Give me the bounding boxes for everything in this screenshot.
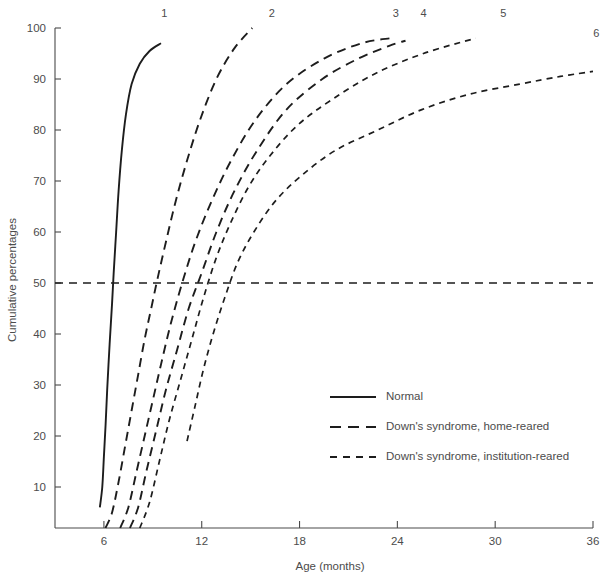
y-tick-label-60: 60: [33, 226, 46, 238]
legend-label-solid: Normal: [386, 390, 423, 402]
y-tick-label-40: 40: [33, 328, 46, 340]
x-tick-label-24: 24: [391, 535, 404, 547]
y-tick-label-70: 70: [33, 175, 46, 187]
curve-label-3: 3: [393, 7, 399, 19]
y-tick-label-30: 30: [33, 379, 46, 391]
curve-label-2: 2: [269, 7, 275, 19]
x-axis-title: Age (months): [295, 560, 364, 572]
curve-4: [130, 41, 406, 528]
y-tick-label-10: 10: [33, 481, 46, 493]
curve-label-5: 5: [500, 7, 506, 19]
y-tick-label-80: 80: [33, 124, 46, 136]
legend-label-inst: Down's syndrome, institution-reared: [386, 450, 569, 462]
curve-6: [187, 71, 593, 441]
x-tick-label-36: 36: [587, 535, 600, 547]
x-tick-label-12: 12: [195, 535, 208, 547]
y-tick-label-90: 90: [33, 73, 46, 85]
y-tick-label-100: 100: [27, 22, 46, 34]
curve-label-4: 4: [420, 7, 426, 19]
chart-canvas: 10203040506070809010061218243036 123456 …: [0, 0, 608, 581]
chart-legend: NormalDown's syndrome, home-rearedDown's…: [330, 390, 569, 462]
curve-label-1: 1: [161, 7, 167, 19]
chart-curve-labels: 123456: [161, 7, 599, 39]
y-tick-label-50: 50: [33, 277, 46, 289]
curve-label-6: 6: [593, 27, 599, 39]
y-tick-label-20: 20: [33, 430, 46, 442]
x-tick-label-30: 30: [489, 535, 502, 547]
x-tick-label-18: 18: [293, 535, 306, 547]
cumulative-percentage-chart: 10203040506070809010061218243036 123456 …: [0, 0, 608, 581]
legend-label-home: Down's syndrome, home-reared: [386, 420, 549, 432]
x-tick-label-6: 6: [101, 535, 107, 547]
y-axis-title: Cumulative percentages: [6, 218, 18, 342]
curve-1: [100, 43, 161, 507]
